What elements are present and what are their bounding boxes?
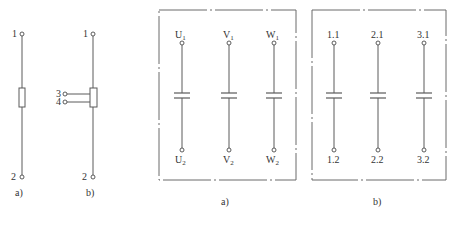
column-bottom-label: 3.2 (417, 155, 430, 165)
terminal-1 (20, 32, 24, 36)
column-bottom-label: U2 (175, 155, 186, 168)
caption-right-a: a) (221, 197, 229, 207)
column-top-label: 3.1 (417, 30, 430, 40)
caption-left-a: a) (15, 188, 23, 198)
terminal-label: 1 (12, 29, 17, 39)
resistor-b (63, 32, 97, 179)
column-top-label: 1.1 (327, 30, 340, 40)
capacitors-b (326, 41, 432, 152)
terminal-label: 2 (82, 172, 87, 182)
column-top-label: 2.1 (371, 30, 384, 40)
capacitors-a (174, 41, 282, 152)
column-top-label: V1 (223, 30, 234, 43)
column-top-label: U1 (175, 30, 186, 43)
column-bottom-label: 2.2 (371, 155, 384, 165)
column-bottom-label: V2 (223, 155, 234, 168)
terminal-label: 4 (56, 97, 61, 107)
caption-left-b: b) (86, 188, 94, 198)
resistor-a (19, 32, 25, 179)
column-bottom-label: 1.2 (327, 155, 340, 165)
column-bottom-label: W2 (266, 155, 279, 168)
terminal-2 (20, 175, 24, 179)
caption-right-b: b) (373, 197, 381, 207)
terminal-label: 1 (83, 29, 88, 39)
column-top-label: W1 (266, 30, 279, 43)
terminal-label: 2 (11, 172, 16, 182)
